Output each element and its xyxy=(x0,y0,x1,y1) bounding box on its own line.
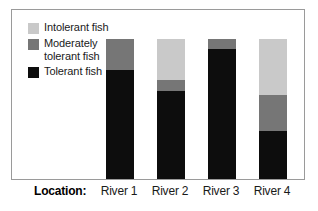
x-tick-label-river-1: River 1 xyxy=(93,184,145,198)
bar-river-4 xyxy=(259,39,287,179)
bars-layer xyxy=(12,10,306,179)
bar-segment-moderately-tolerant-fish xyxy=(157,80,185,91)
x-tick-label-river-3: River 3 xyxy=(195,184,247,198)
stacked-bar-chart-figure: Intolerant fish Moderately tolerant fish… xyxy=(0,0,318,211)
bar-segment-moderately-tolerant-fish xyxy=(208,39,236,49)
bar-segment-intolerant-fish xyxy=(259,39,287,95)
x-axis-title: Location: xyxy=(34,184,86,198)
bar-segment-intolerant-fish xyxy=(157,39,185,80)
bar-segment-tolerant-fish xyxy=(208,49,236,179)
plot-frame: Intolerant fish Moderately tolerant fish… xyxy=(11,9,305,180)
bar-river-2 xyxy=(157,39,185,179)
bar-segment-moderately-tolerant-fish xyxy=(106,39,134,70)
x-axis-row: Location: River 1River 2River 3River 4 xyxy=(0,182,318,204)
bar-segment-tolerant-fish xyxy=(259,131,287,179)
bar-river-1 xyxy=(106,39,134,179)
x-tick-label-river-4: River 4 xyxy=(246,184,298,198)
bar-segment-tolerant-fish xyxy=(106,70,134,179)
bar-river-3 xyxy=(208,39,236,179)
bar-segment-moderately-tolerant-fish xyxy=(259,95,287,131)
bar-segment-tolerant-fish xyxy=(157,91,185,179)
x-tick-label-river-2: River 2 xyxy=(144,184,196,198)
